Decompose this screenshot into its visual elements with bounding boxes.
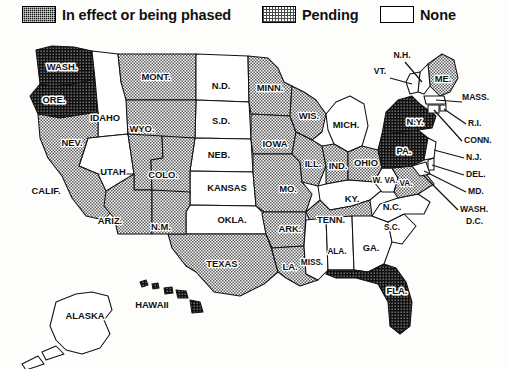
label-hawaii: HAWAII (135, 299, 168, 310)
legend-item-in-effect: In effect or being phased (22, 6, 231, 23)
label-wisconsin: WIS. (299, 110, 319, 121)
state-connecticut[interactable] (428, 105, 439, 113)
label-colorado: COLO. (148, 169, 178, 180)
leader-connecticut (434, 110, 462, 141)
legend-label-none: None (420, 7, 456, 23)
label-iowa: IOWA (263, 138, 288, 149)
label-louisiana: LA. (282, 261, 297, 272)
label-georgia: GA. (363, 242, 380, 253)
legend-swatch-pending (262, 6, 296, 23)
label-texas: TEXAS (206, 258, 237, 269)
label-tennessee: TENN. (317, 214, 345, 225)
label-north-carolina: N.C. (383, 201, 402, 212)
callout-new-jersey: N.J. (466, 152, 482, 162)
legend-label-pending: Pending (302, 7, 359, 23)
label-florida: FLA. (387, 285, 408, 296)
state-mississippi[interactable] (304, 218, 328, 280)
callout-maryland: MD. (468, 186, 484, 196)
label-south-carolina: S.C. (384, 223, 400, 232)
callout-washington-dc-line2: D.C. (466, 216, 483, 226)
callout-new-hampshire: N.H. (393, 50, 410, 60)
callout-delaware: DEL. (466, 169, 486, 179)
label-montana: MONT. (141, 71, 170, 82)
label-nevada: NEV. (61, 137, 82, 148)
label-maine: ME. (435, 73, 452, 84)
label-west-virginia: W. VA. (373, 176, 398, 185)
label-kentucky: KY. (345, 193, 360, 204)
label-michigan: MICH. (333, 119, 360, 130)
state-delaware[interactable] (428, 158, 434, 170)
label-mississippi: MISS. (301, 258, 323, 267)
label-ohio: OHIO (354, 157, 378, 168)
legend-swatch-in-effect (22, 6, 56, 23)
legend-item-pending: Pending (262, 6, 359, 23)
label-oregon: ORE. (43, 94, 66, 105)
label-alaska: ALASKA (65, 310, 104, 321)
label-new-york: N.Y. (406, 116, 423, 127)
legend-label-in-effect: In effect or being phased (62, 7, 231, 23)
state-florida[interactable] (326, 264, 412, 334)
state-alaska[interactable] (22, 292, 112, 369)
callout-connecticut: CONN. (464, 135, 492, 145)
legend-item-none: None (380, 6, 456, 23)
callout-vermont: VT. (374, 66, 386, 76)
label-utah: UTAH (100, 166, 126, 177)
label-kansas: KANSAS (207, 182, 247, 193)
callout-massachusetts: MASS. (462, 92, 489, 102)
label-illinois: ILL. (305, 158, 322, 169)
label-indiana: IND. (329, 160, 348, 171)
leader-new-jersey (434, 150, 464, 158)
label-oklahoma: OKLA. (217, 214, 246, 225)
callout-washington-dc-line1: WASH. (460, 204, 488, 214)
label-arkansas: ARK. (279, 223, 302, 234)
legend-swatch-none (380, 6, 414, 23)
label-missouri: MO. (279, 183, 297, 194)
label-north-dakota: N.D. (212, 80, 231, 91)
map-legend: In effect or being phased Pending None (0, 6, 508, 34)
label-arizona: ARIZ. (98, 215, 122, 226)
callout-rhode-island: R.I. (468, 118, 481, 128)
state-north-dakota[interactable] (196, 54, 249, 102)
label-minnesota: MINN. (257, 82, 284, 93)
label-washington: WASH. (47, 61, 78, 72)
map-canvas: WASH. ORE. IDAHO MONT. N.D. S.D. NEB. KA… (0, 34, 508, 369)
label-nebraska: NEB. (208, 149, 230, 160)
label-pennsylvania: PA. (397, 145, 412, 156)
label-south-dakota: S.D. (212, 115, 230, 126)
label-new-mexico: N.M. (151, 221, 171, 232)
leader-delaware (432, 165, 464, 175)
us-status-map: In effect or being phased Pending None (0, 0, 508, 369)
label-idaho: IDAHO (90, 112, 120, 123)
label-virginia: VA. (399, 179, 412, 188)
label-alabama: ALA. (327, 247, 346, 256)
label-california: CALIF. (31, 185, 60, 196)
label-wyoming: WYO. (130, 123, 155, 134)
leader-rhode-island (444, 109, 466, 124)
